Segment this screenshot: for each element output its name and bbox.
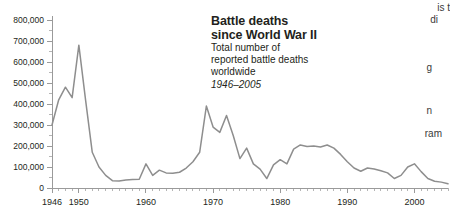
y-axis-ticks	[47, 20, 52, 188]
gutter-text-fragment: ram	[425, 128, 442, 139]
gutter-text-fragment: n	[426, 105, 432, 116]
y-tick-label: 400,000	[13, 99, 44, 109]
chart-subtitle-line-3: worldwide	[211, 66, 351, 78]
y-tick-label: 500,000	[13, 78, 44, 88]
x-axis-ticks	[52, 188, 448, 193]
y-tick-label: 0	[39, 183, 44, 193]
y-axis-tick-labels: 0100,000200,000300,000400,000500,000600,…	[13, 15, 44, 193]
y-tick-label: 800,000	[13, 15, 44, 25]
y-tick-label: 200,000	[13, 141, 44, 151]
gutter-text-fragment: is t	[437, 2, 450, 13]
x-tick-label: 1980	[270, 197, 290, 207]
chart-title-line-1: Battle deaths	[211, 14, 351, 28]
clipped-adjacent-column-text: is tdignram	[398, 0, 450, 160]
gutter-text-fragment: g	[426, 62, 432, 73]
y-tick-label: 700,000	[13, 36, 44, 46]
chart-title-block: Battle deaths since World War II Total n…	[211, 14, 351, 91]
chart-title-line-2: since World War II	[211, 28, 351, 42]
x-tick-label: 1970	[203, 197, 223, 207]
y-tick-label: 100,000	[13, 162, 44, 172]
x-tick-label: 1990	[337, 197, 357, 207]
x-tick-label: 1960	[136, 197, 156, 207]
x-tick-label: 1950	[69, 197, 89, 207]
x-tick-label: 2000	[404, 197, 424, 207]
chart-subtitle-line-1: Total number of	[211, 42, 351, 54]
gutter-text-fragment: di	[430, 14, 438, 25]
chart-figure-root: 0100,000200,000300,000400,000500,000600,…	[0, 0, 450, 213]
x-axis-tick-labels: 1946195019601970198019902000	[42, 197, 424, 207]
chart-subtitle-line-2: reported battle deaths	[211, 54, 351, 66]
y-tick-label: 300,000	[13, 120, 44, 130]
y-tick-label: 600,000	[13, 57, 44, 67]
chart-year-range: 1946–2005	[211, 79, 351, 91]
x-tick-label: 1946	[42, 197, 62, 207]
